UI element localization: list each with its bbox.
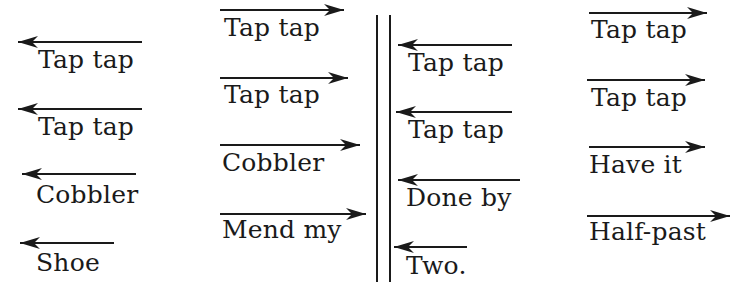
- column-2-label-3: Cobbler: [222, 150, 324, 175]
- column-4-label-2: Tap tap: [591, 85, 687, 110]
- column-4-label-1: Tap tap: [591, 17, 687, 42]
- column-1-label-2: Tap tap: [38, 114, 134, 139]
- rhythm-arrow-diagram: Tap tap Tap tap Cobbler Shoe Tap tap Tap…: [0, 0, 733, 286]
- column-3-label-1: Tap tap: [408, 50, 504, 75]
- column-4-label-4: Half-past: [589, 219, 706, 244]
- column-3-label-3: Done by: [406, 185, 511, 210]
- column-3-label-4: Two.: [406, 253, 467, 278]
- column-2-label-2: Tap tap: [224, 82, 320, 107]
- column-3-label-2: Tap tap: [408, 117, 504, 142]
- column-1-label-1: Tap tap: [38, 47, 134, 72]
- column-2-label-1: Tap tap: [224, 15, 320, 40]
- column-1-label-4: Shoe: [36, 250, 100, 275]
- column-2-label-4: Mend my: [222, 217, 342, 242]
- column-1-label-3: Cobbler: [36, 182, 138, 207]
- center-double-divider: [377, 15, 390, 282]
- column-4-label-3: Have it: [589, 152, 682, 177]
